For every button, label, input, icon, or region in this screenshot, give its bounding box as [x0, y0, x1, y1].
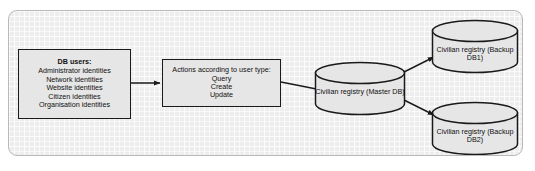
db-users-item: Organisation identities	[39, 101, 110, 109]
actions-item: Update	[210, 91, 233, 99]
database-cylinder-icon	[314, 61, 406, 116]
node-actions[interactable]: Actions according to user type: Query Cr…	[162, 59, 281, 107]
arrow-master-db-to-backup-db1	[402, 57, 434, 73]
node-db-users[interactable]: DB users: Administrator identities Netwo…	[18, 49, 131, 119]
diagram-frame: DB users: Administrator identities Netwo…	[8, 10, 523, 156]
database-cylinder-icon	[431, 101, 519, 156]
node-master-db[interactable]: Civilian registry (Master DB)	[314, 61, 406, 116]
node-backup-db2[interactable]: Civilian registry (Backup DB2)	[431, 101, 519, 156]
arrow-master-db-to-backup-db2	[402, 99, 434, 115]
database-cylinder-icon	[431, 19, 519, 74]
node-backup-db1[interactable]: Civilian registry (Backup DB1)	[431, 19, 519, 74]
diagram-canvas: DB users: Administrator identities Netwo…	[0, 0, 535, 171]
